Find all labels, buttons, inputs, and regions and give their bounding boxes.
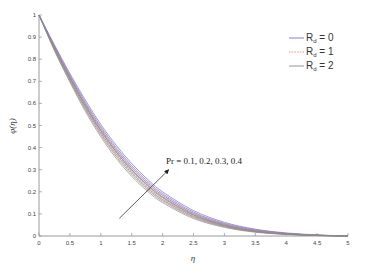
y-axis-label: φ(η) <box>7 118 17 133</box>
x-tick-label: 4.5 <box>313 240 322 246</box>
legend: Rd = 0Rd = 1Rd = 2 <box>289 32 334 72</box>
legend-entry-2: Rd = 2 <box>306 60 334 72</box>
x-tick-label: 3.5 <box>251 240 260 246</box>
x-tick-label: 1.5 <box>128 240 137 246</box>
y-tick-label: 0.2 <box>28 189 37 195</box>
y-tick-label: 0.1 <box>28 211 37 217</box>
y-tick-label: 0.8 <box>28 56 37 62</box>
x-tick-label: 2.5 <box>189 240 198 246</box>
y-tick-label: 0.9 <box>28 34 37 40</box>
pr-annotation-text: Pr = 0.1, 0.2, 0.3, 0.4 <box>166 156 243 166</box>
x-axis-label: η <box>191 253 196 263</box>
legend-entry-0: Rd = 0 <box>306 32 334 44</box>
chart: 00.511.522.533.544.5500.10.20.30.40.50.6… <box>0 0 366 270</box>
y-tick-label: 0.4 <box>28 145 37 151</box>
y-tick-label: 0.3 <box>28 167 37 173</box>
y-tick-label: 0.7 <box>28 78 37 84</box>
y-tick-label: 0.6 <box>28 100 37 106</box>
legend-entry-1: Rd = 1 <box>306 46 334 58</box>
x-tick-label: 0.5 <box>66 240 75 246</box>
y-tick-label: 0.5 <box>28 123 37 129</box>
